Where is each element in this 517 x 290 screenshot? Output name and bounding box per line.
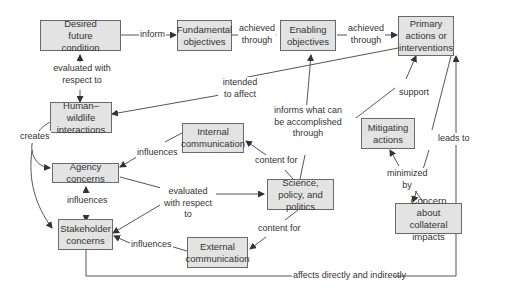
edge-label-influences-3: influences <box>130 239 173 251</box>
node-fundamental-objectives: Fundamental objectives <box>177 20 232 51</box>
edge-label-evaluated-2: evaluated with respect to <box>160 186 216 221</box>
edge-label-influences-1: influences <box>136 147 179 159</box>
edge-label-affects: affects directly and indirectly <box>292 270 394 282</box>
edge-label-leads-to: leads to <box>437 133 471 145</box>
node-internal-communication: Internal communication <box>182 123 244 153</box>
node-desired-future-condition: Desired future condition <box>40 20 121 51</box>
node-primary-actions: Primary actions or interventions <box>398 16 454 56</box>
edge-label-support: support <box>398 87 430 99</box>
edge-label-intended-to-affect: intended to affect <box>218 77 262 100</box>
node-stakeholder-concerns: Stakeholder concerns <box>58 219 113 250</box>
node-human-wildlife-interactions: Human–wildlife interactions <box>50 102 112 133</box>
node-external-communication: External communication <box>187 237 248 268</box>
edge-label-inform: inform <box>139 29 166 41</box>
node-science-policy-politics: Science, policy, and politics <box>267 179 334 210</box>
edge-label-evaluated-1: evaluated with respect to <box>52 63 112 86</box>
edge-label-achieved-through-2: achieved through <box>347 23 385 46</box>
edge-label-achieved-through-1: achieved through <box>238 23 276 46</box>
node-agency-concerns: Agency concerns <box>52 163 119 183</box>
edge-label-creates: creates <box>19 131 51 143</box>
edge-label-content-for-1: content for <box>254 155 299 167</box>
edge-label-informs-what: informs what can be accomplished through <box>268 105 348 140</box>
edge-label-minimized-by: minimized by <box>386 168 428 191</box>
node-concern-collateral-impacts: Concern about collateral impacts <box>395 203 462 234</box>
node-mitigating-actions: Mitigating actions <box>361 118 415 149</box>
edge-label-content-for-2: content for <box>257 223 302 235</box>
edge-label-influences-2: influences <box>66 195 109 207</box>
node-enabling-objectives: Enabling objectives <box>280 20 336 51</box>
